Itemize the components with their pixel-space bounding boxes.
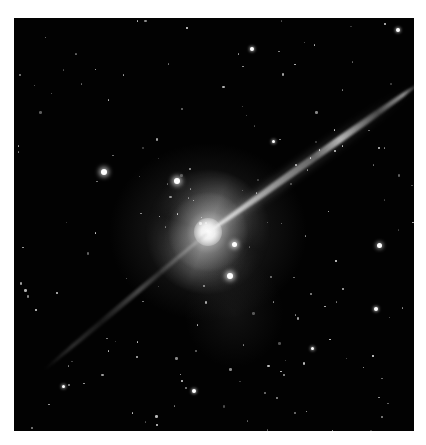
faint-star (342, 89, 344, 91)
faint-star (144, 20, 147, 23)
faint-star (373, 164, 375, 166)
faint-star (264, 392, 266, 394)
faint-star (384, 199, 386, 201)
faint-star (137, 341, 139, 343)
faint-star (139, 176, 141, 178)
faint-star (381, 378, 383, 380)
faint-star (142, 301, 144, 303)
faint-star (267, 365, 270, 368)
faint-star (328, 211, 330, 213)
faint-star (132, 412, 134, 414)
faint-star (306, 411, 308, 413)
faint-star-field (14, 18, 414, 431)
faint-star (324, 306, 326, 308)
faint-star (19, 74, 21, 76)
faint-star (223, 405, 226, 408)
faint-star (372, 355, 374, 357)
faint-star (281, 20, 283, 22)
faint-star (281, 223, 283, 225)
faint-star (140, 213, 142, 215)
faint-star (411, 185, 413, 187)
faint-star (303, 362, 306, 365)
faint-star (398, 174, 401, 177)
faint-star (335, 260, 337, 262)
faint-star (190, 188, 192, 190)
faint-star (87, 252, 90, 255)
faint-star (257, 179, 259, 181)
faint-star (315, 111, 318, 114)
faint-star (249, 246, 251, 248)
faint-star (48, 404, 50, 406)
faint-star (310, 293, 312, 295)
faint-star (181, 108, 183, 110)
faint-star (185, 387, 187, 389)
faint-star (334, 129, 336, 131)
faint-star (205, 222, 207, 224)
faint-star (203, 285, 205, 287)
faint-star (205, 301, 208, 304)
faint-star (384, 23, 387, 26)
faint-star (34, 85, 36, 87)
faint-star (95, 232, 97, 234)
faint-star (156, 138, 159, 141)
faint-star (186, 27, 188, 29)
faint-star (35, 309, 37, 311)
faint-star (165, 226, 167, 228)
faint-star (319, 149, 321, 151)
faint-star (177, 213, 179, 215)
faint-star (279, 139, 281, 141)
faint-star (137, 20, 139, 22)
faint-star (158, 158, 160, 160)
faint-star (18, 151, 20, 153)
faint-star (294, 64, 296, 66)
faint-star (156, 424, 158, 426)
faint-star (280, 371, 282, 373)
faint-star (180, 174, 183, 177)
faint-star (188, 197, 190, 199)
faint-star (307, 169, 309, 171)
faint-star (273, 301, 275, 303)
faint-star (222, 86, 225, 89)
faint-star (278, 342, 281, 345)
galaxy-image (14, 18, 414, 431)
faint-star (352, 61, 354, 63)
faint-star (246, 115, 248, 117)
faint-star (293, 277, 295, 279)
faint-star (368, 130, 370, 132)
faint-star (243, 344, 245, 346)
faint-star (108, 350, 110, 352)
faint-star (398, 229, 400, 231)
faint-star (378, 147, 380, 149)
faint-star (180, 374, 182, 376)
faint-star (193, 200, 195, 202)
faint-star (297, 317, 300, 320)
faint-star (276, 397, 278, 399)
faint-star (197, 324, 199, 326)
faint-star (342, 288, 344, 290)
faint-star (363, 367, 365, 369)
faint-star (83, 383, 85, 385)
faint-star (256, 192, 258, 194)
faint-star (75, 53, 77, 55)
faint-star (159, 216, 161, 218)
faint-star (334, 150, 336, 152)
faint-star (378, 397, 380, 399)
faint-star (71, 361, 73, 363)
faint-star (145, 421, 147, 423)
faint-star (175, 357, 178, 360)
faint-star (167, 183, 169, 185)
faint-star (242, 106, 244, 108)
faint-star (174, 405, 176, 407)
faint-star (22, 247, 24, 249)
faint-star (295, 164, 297, 166)
faint-star (390, 83, 392, 85)
faint-star (39, 111, 42, 114)
faint-star (290, 183, 292, 185)
faint-star (45, 37, 47, 39)
faint-star (63, 69, 65, 71)
faint-star (18, 145, 20, 147)
faint-star (229, 368, 232, 371)
faint-star (294, 412, 296, 414)
faint-star (169, 196, 172, 199)
faint-star (247, 420, 249, 422)
